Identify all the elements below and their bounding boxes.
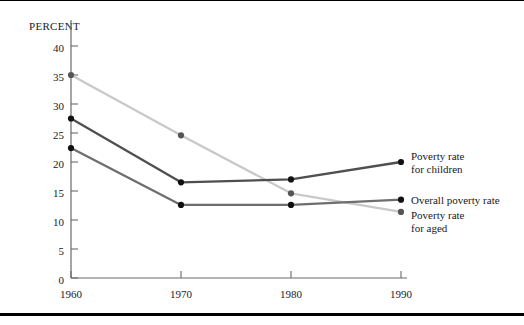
data-point-overall-poverty-rate-1970[interactable] bbox=[178, 202, 184, 208]
data-point-poverty-rate-for-children-1970[interactable] bbox=[178, 179, 184, 185]
data-point-poverty-rate-for-aged-1960[interactable] bbox=[68, 72, 74, 78]
data-point-poverty-rate-for-children-1990[interactable] bbox=[398, 159, 404, 165]
data-point-overall-poverty-rate-1960[interactable] bbox=[68, 145, 74, 151]
data-point-overall-poverty-rate-1990[interactable] bbox=[398, 197, 404, 203]
data-point-poverty-rate-for-aged-1980[interactable] bbox=[288, 190, 294, 196]
data-point-poverty-rate-for-aged-1990[interactable] bbox=[398, 209, 404, 215]
data-point-poverty-rate-for-children-1980[interactable] bbox=[288, 176, 294, 182]
line-chart-plot bbox=[0, 0, 524, 325]
data-point-poverty-rate-for-aged-1970[interactable] bbox=[178, 132, 184, 138]
series-line-poverty-rate-for-aged bbox=[71, 75, 401, 212]
data-point-overall-poverty-rate-1980[interactable] bbox=[288, 202, 294, 208]
figure-container: PERCENT 40 35 30 25 20 15 10 5 0 1960 19… bbox=[0, 0, 524, 325]
data-point-poverty-rate-for-children-1960[interactable] bbox=[68, 115, 74, 121]
series-line-overall-poverty-rate bbox=[71, 148, 401, 205]
